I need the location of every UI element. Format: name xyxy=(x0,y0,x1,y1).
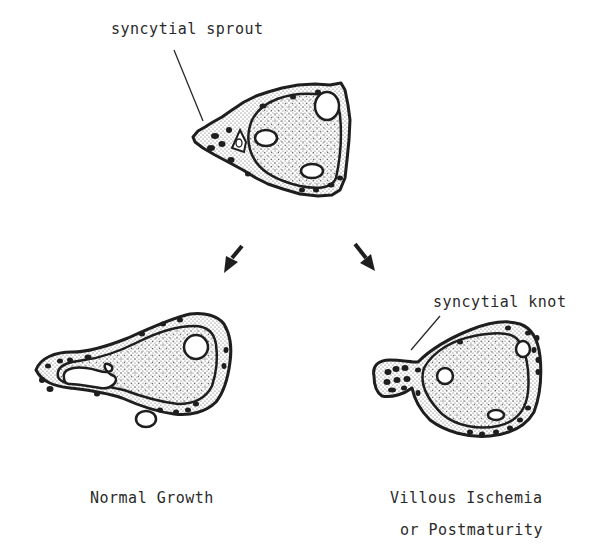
ischemic-villus-capillary xyxy=(437,368,453,384)
ischemic-villus-capillary xyxy=(488,410,504,420)
villous-ischemia-caption-line1: Villous Ischemia xyxy=(390,489,543,507)
normal-villus-large-vessel xyxy=(64,364,116,389)
syncytial-sprout-leader-line xyxy=(174,50,203,121)
top-villus xyxy=(174,50,350,196)
diagram-canvas: syncytial sprout syncytial knot Normal G… xyxy=(0,0,603,550)
syncytial-knot-label: syncytial knot xyxy=(433,293,566,311)
top-villus-capillary xyxy=(301,164,323,178)
normal-growth-caption: Normal Growth xyxy=(90,489,214,507)
ischemic-villus-capillary xyxy=(516,341,530,357)
villous-ischemia-caption-line2: or Postmaturity xyxy=(400,521,543,539)
top-villus-capillary xyxy=(255,130,277,146)
normal-growth-villus xyxy=(36,313,231,427)
arrow-to-normal-growth xyxy=(224,246,242,273)
arrow-to-villous-ischemia xyxy=(355,244,375,271)
diagram-drawing xyxy=(0,0,603,550)
normal-villus-capillary xyxy=(136,411,156,427)
syncytial-knot-leader-line xyxy=(411,316,440,350)
top-villus-capillary xyxy=(315,92,339,120)
syncytial-sprout-label: syncytial sprout xyxy=(111,20,264,38)
normal-villus-capillary xyxy=(184,335,208,359)
ischemic-villus xyxy=(374,316,541,437)
